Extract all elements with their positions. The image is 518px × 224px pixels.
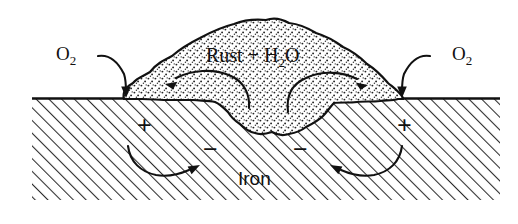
- rust-label-tail: O: [285, 44, 299, 66]
- anode-left-plus-sign: +: [137, 111, 152, 140]
- oxygen-right-label: O2: [452, 43, 472, 68]
- cathode-right-minus-sign: −: [293, 135, 308, 164]
- oxygen-right-symbol: O: [452, 43, 466, 64]
- rust-label-main: Rust + H: [206, 44, 278, 66]
- cathode-left-minus-sign: −: [203, 135, 218, 164]
- svg-text:O2: O2: [56, 43, 76, 68]
- svg-text:O2: O2: [452, 43, 472, 68]
- oxygen-right-subscript: 2: [466, 53, 473, 68]
- oxygen-left-label: O2: [56, 43, 76, 68]
- iron-label: Iron: [238, 168, 271, 189]
- oxygen-right-arrow: [397, 56, 430, 98]
- oxygen-left-symbol: O: [56, 43, 70, 64]
- oxygen-left-arrow: [98, 56, 131, 98]
- iron-label-text: Iron: [238, 168, 271, 189]
- oxygen-left-subscript: 2: [70, 53, 77, 68]
- corrosion-diagram: O2 O2 Rust + H2O Iron + + − −: [0, 0, 518, 224]
- anode-right-plus-sign: +: [397, 111, 412, 140]
